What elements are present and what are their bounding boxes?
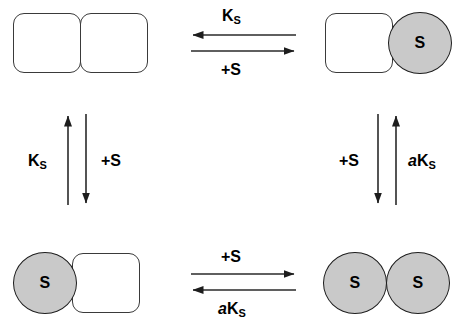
label-right-forward: +S <box>339 153 359 169</box>
label-base: K <box>222 7 234 24</box>
label-base: +S <box>101 152 121 169</box>
subunit-empty-square <box>80 13 148 73</box>
label-italic-prefix: a <box>218 300 227 317</box>
label-right-reverse: aKS <box>408 153 436 169</box>
label-top-reverse: KS <box>222 8 241 24</box>
label-bottom-reverse: aKS <box>218 301 246 317</box>
subunit-label: S <box>387 275 449 291</box>
subunit-empty-square <box>13 13 81 73</box>
label-base: K <box>417 152 429 169</box>
label-base: +S <box>221 248 241 265</box>
label-italic-prefix: a <box>408 152 417 169</box>
label-base: +S <box>221 61 241 78</box>
label-sub: S <box>234 14 241 26</box>
label-base: K <box>28 152 40 169</box>
label-bottom-forward: +S <box>221 249 241 265</box>
diagram-canvas: S S S S <box>0 0 463 322</box>
label-top-forward: +S <box>221 62 241 78</box>
label-base: +S <box>339 152 359 169</box>
label-left-reverse: KS <box>28 153 47 169</box>
subunit-bound-circle: S <box>386 252 450 314</box>
subunit-bound-circle: S <box>388 12 452 74</box>
subunit-bound-circle: S <box>323 252 387 314</box>
label-sub: S <box>40 159 47 171</box>
subunit-bound-circle: S <box>13 252 77 314</box>
subunit-empty-square <box>325 13 393 73</box>
subunit-label: S <box>14 275 76 291</box>
subunit-empty-square <box>72 253 140 313</box>
subunit-label: S <box>324 275 386 291</box>
label-sub: S <box>238 307 245 319</box>
label-left-forward: +S <box>101 153 121 169</box>
subunit-label: S <box>389 35 451 51</box>
label-base: K <box>227 300 239 317</box>
label-sub: S <box>428 159 435 171</box>
